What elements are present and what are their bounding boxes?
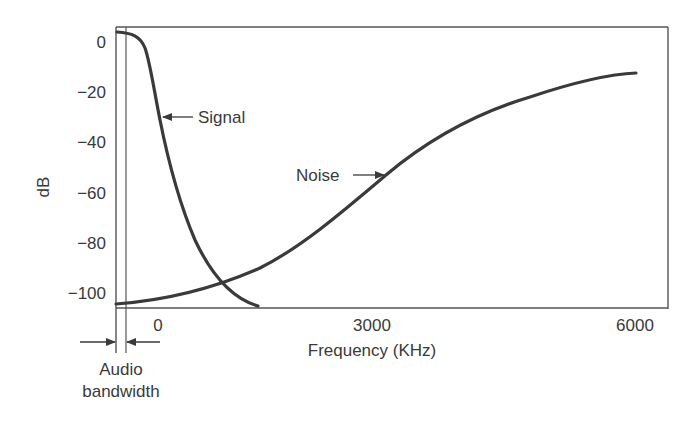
x-axis-label: Frequency (KHz): [308, 341, 436, 360]
x-tick-3000: 3000: [353, 316, 391, 335]
plot-frame: [116, 27, 668, 353]
y-tick-minus80: −80: [77, 234, 106, 253]
y-axis-label: dB: [34, 177, 53, 198]
noise-curve: [116, 73, 636, 304]
y-tick-minus20: −20: [77, 83, 106, 102]
x-tick-6000: 6000: [616, 316, 654, 335]
signal-annotation: Signal: [163, 108, 245, 127]
signal-curve: [117, 32, 258, 306]
y-tick-minus100: −100: [68, 284, 106, 303]
noise-label: Noise: [296, 166, 339, 185]
x-axis-ticks: 0 3000 6000: [153, 316, 654, 335]
noise-annotation: Noise: [296, 166, 384, 185]
audio-bandwidth-annotation: Audio bandwidth: [80, 342, 160, 401]
y-tick-0: 0: [97, 33, 106, 52]
x-tick-0: 0: [153, 316, 162, 335]
y-tick-minus60: −60: [77, 184, 106, 203]
signal-label: Signal: [198, 108, 245, 127]
audio-label-line2: bandwidth: [82, 382, 160, 401]
chart: 0 −20 −40 −60 −80 −100 dB 0 3000 6000 Fr…: [0, 0, 700, 425]
y-axis-ticks: 0 −20 −40 −60 −80 −100: [68, 33, 106, 303]
audio-label-line1: Audio: [99, 360, 142, 379]
y-tick-minus40: −40: [77, 133, 106, 152]
